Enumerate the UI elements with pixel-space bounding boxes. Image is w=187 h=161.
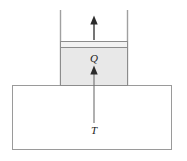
- temperature-label: T: [91, 124, 98, 136]
- heat-label: Q: [90, 52, 98, 64]
- figure-container: Q T: [0, 0, 187, 161]
- piston-plate: [61, 42, 128, 48]
- thermal-reservoir-block: [13, 86, 172, 150]
- piston-cylinder-diagram: Q T: [0, 0, 187, 161]
